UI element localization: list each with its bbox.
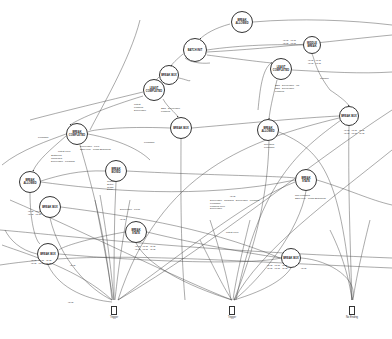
edge-label: Latest Finished Deliverable	[134, 104, 146, 112]
node-label: BREAK ALLOWED	[235, 19, 248, 25]
state-node[interactable]: LEAST COMPLETED	[143, 79, 165, 101]
node-label: BREAK ALLOWED	[261, 127, 274, 133]
edge-label: Deliverable · Files SSR Leuc · Finish Be…	[80, 146, 111, 152]
edge-label: Softboiled Confirmed Deliverable · Finis…	[51, 155, 75, 163]
node-label: LEAST COMPLETED	[146, 87, 162, 93]
edge-label: IC.ID · IC.ID · IC.ID IC.ID · IC.ID · IC…	[135, 246, 156, 252]
terminal-box[interactable]	[229, 306, 235, 315]
edge-label: SSR · Deliverable Finished	[161, 108, 180, 114]
state-node[interactable]: BREAK ALLOWED	[231, 11, 253, 33]
state-node[interactable]: BREAK STATE	[295, 169, 317, 191]
node-label: BREAK BOX	[161, 74, 177, 77]
edge-label: IC.ID · IC.ID · IC.ID IC.ID · IC.ID · IC…	[31, 260, 52, 266]
node-label: BREAK STATE	[131, 229, 140, 235]
terminal-box[interactable]	[111, 306, 117, 315]
state-node[interactable]: BATCH INIT	[183, 38, 207, 62]
state-node[interactable]: BREAK BOX	[170, 117, 192, 139]
edge-label: IC.ID	[120, 219, 125, 222]
edge-label: Released Feedback	[264, 144, 275, 150]
edge-label: Feedback	[144, 142, 155, 145]
node-label: BREAK ALLOWED	[23, 179, 36, 185]
edge-label: IC.ID	[301, 268, 306, 271]
edge-label: IC.ID · IC.ID IC.ID · IC.ID	[308, 60, 321, 66]
state-node[interactable]: BREAK ALLOWED	[19, 171, 41, 193]
edge-label: Latest Leuc	[226, 232, 238, 235]
state-node[interactable]: BREAK BOX	[339, 106, 359, 126]
terminal-label: Trigger	[102, 316, 126, 319]
state-node[interactable]: BREAK STATE	[125, 221, 147, 243]
state-node[interactable]: MIDDLE BREAK	[303, 36, 321, 54]
state-node[interactable]: LEAST COMPLETED	[270, 58, 292, 80]
edge-label: IC.ID · IC.ID · IC.ID IC.ID · IC.ID · IC…	[267, 265, 288, 271]
node-label: BREAK COMPLETED	[69, 131, 85, 137]
state-node[interactable]: BREAK COMPLETED	[66, 123, 88, 145]
footnote: IC.ID	[68, 302, 73, 305]
diagram-canvas: BREAK ALLOWEDBATCH INITMIDDLE BREAKBREAK…	[0, 0, 392, 339]
node-label: MIDDLE BREAK	[307, 42, 317, 48]
edge-label: Custom Setup Grade Delay	[107, 181, 115, 192]
node-label: LEAST COMPLETED	[273, 66, 289, 72]
node-label: BREAK BOXED	[111, 168, 120, 174]
edge-label: Deliverable · Changes · Deliverable · Fi…	[210, 200, 259, 211]
state-node[interactable]: BREAK ALLOWED	[257, 119, 279, 141]
node-label: BREAK BOX	[283, 257, 299, 260]
node-label: BATCH INIT	[188, 49, 203, 52]
node-label: BREAK BOX	[42, 206, 58, 209]
node-label: BREAK BOX	[40, 253, 56, 256]
edge-label: SSR · Deliverable · Ink SSR · Deliverabl…	[275, 85, 299, 93]
edge-label: Feedback	[38, 137, 49, 140]
edge-label: Non-Finishing SSR Leuc · Finish Beginnin…	[295, 195, 326, 201]
edge-label: IC.ID · IC.ID IC.ID · IC.ID	[28, 211, 41, 217]
edge-label: IC.ID · IC.ID IC.ID · IC.ID	[283, 40, 296, 46]
terminal-label: No Ending	[340, 316, 364, 319]
node-label: BREAK BOX	[173, 127, 189, 130]
edge-label: IC.ID · IC.ID · IC.ID IC.ID · IC.ID · IC…	[344, 130, 365, 136]
state-node[interactable]: BREAK BOXED	[105, 160, 127, 182]
state-node[interactable]: BREAK BOX	[39, 196, 61, 218]
edge-label: Deliverable · Filing	[120, 209, 140, 212]
edge-label: IC.ID	[70, 265, 75, 268]
edge-label: Transfer	[320, 78, 329, 81]
terminal-box[interactable]	[349, 306, 355, 315]
terminal-label: Trigger	[220, 316, 244, 319]
node-label: BREAK BOX	[341, 115, 357, 118]
node-label: BREAK STATE	[301, 177, 310, 183]
